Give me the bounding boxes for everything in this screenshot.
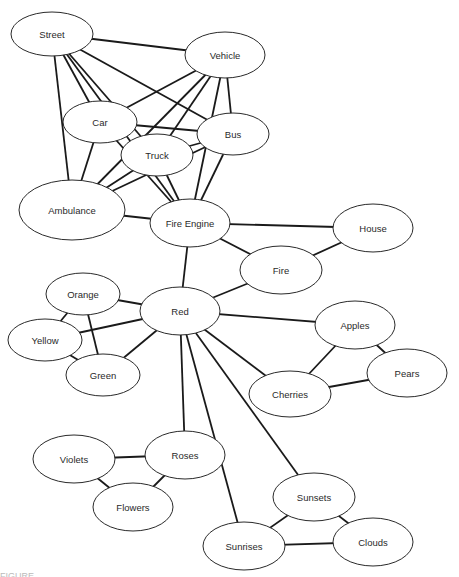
node-bus: Bus	[197, 113, 269, 155]
node-cherries: Cherries	[249, 371, 331, 417]
node-orange: Orange	[46, 273, 120, 315]
node-apples: Apples	[315, 301, 395, 349]
semantic-network-diagram: StreetVehicleCarBusTruckAmbulanceFire En…	[0, 0, 459, 577]
node-label: Orange	[67, 289, 99, 300]
node-label: Pears	[395, 368, 420, 379]
node-ambulance: Ambulance	[19, 180, 125, 240]
node-label: Ambulance	[48, 205, 96, 216]
node-red: Red	[140, 287, 220, 335]
node-label: Bus	[225, 129, 242, 140]
node-label: Vehicle	[210, 50, 241, 61]
node-label: Truck	[145, 150, 169, 161]
node-label: Fire Engine	[166, 218, 215, 229]
node-label: Green	[90, 370, 116, 381]
node-label: Apples	[340, 320, 369, 331]
node-label: Street	[39, 29, 65, 40]
node-street: Street	[11, 12, 93, 56]
node-flowers: Flowers	[93, 483, 173, 531]
node-label: Red	[171, 306, 188, 317]
node-label: Sunrises	[226, 541, 263, 552]
node-label: Roses	[172, 450, 199, 461]
node-sunrises: Sunrises	[203, 522, 285, 570]
node-pears: Pears	[367, 349, 447, 397]
edge-red-sunrises	[180, 311, 244, 546]
node-label: Yellow	[31, 335, 58, 346]
node-label: Sunsets	[297, 492, 332, 503]
node-fire-engine: Fire Engine	[150, 199, 230, 247]
node-roses: Roses	[145, 431, 225, 479]
node-sunsets: Sunsets	[273, 473, 355, 521]
node-car: Car	[63, 101, 137, 143]
node-yellow: Yellow	[8, 319, 82, 361]
node-truck: Truck	[121, 134, 193, 176]
node-label: Cherries	[272, 389, 308, 400]
node-green: Green	[66, 354, 140, 396]
node-label: House	[359, 223, 386, 234]
node-violets: Violets	[33, 435, 115, 483]
node-label: Violets	[60, 454, 89, 465]
node-label: Car	[92, 117, 107, 128]
node-vehicle: Vehicle	[185, 32, 265, 78]
node-label: Clouds	[358, 537, 388, 548]
node-label: Fire	[273, 265, 289, 276]
node-label: Flowers	[116, 502, 150, 513]
node-house: House	[333, 204, 413, 252]
node-clouds: Clouds	[333, 518, 413, 566]
node-fire: Fire	[240, 246, 322, 294]
figure-caption: FIGURE	[0, 568, 459, 577]
